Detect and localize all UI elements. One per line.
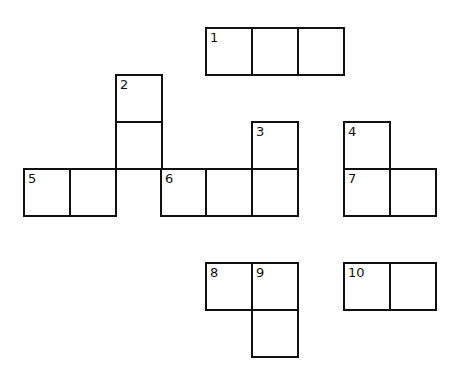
- crossword-cell[interactable]: [251, 309, 299, 358]
- crossword-cell[interactable]: [115, 168, 163, 217]
- crossword-cell[interactable]: [389, 168, 437, 217]
- crossword-cell[interactable]: [297, 27, 345, 76]
- clue-number: 2: [120, 78, 128, 91]
- clue-number: 6: [165, 172, 173, 185]
- crossword-cell-6[interactable]: 6: [160, 168, 208, 217]
- crossword-grid: 12345678910: [0, 0, 460, 375]
- crossword-cell[interactable]: [251, 27, 299, 76]
- crossword-cell-1[interactable]: 1: [205, 27, 253, 76]
- crossword-cell-10[interactable]: 10: [343, 262, 391, 311]
- clue-number: 10: [348, 266, 365, 279]
- crossword-cell-9[interactable]: 9: [251, 262, 299, 311]
- clue-number: 9: [256, 266, 264, 279]
- clue-number: 3: [256, 125, 264, 138]
- crossword-cell-2[interactable]: 2: [115, 74, 163, 123]
- clue-number: 8: [210, 266, 218, 279]
- crossword-cell[interactable]: [251, 168, 299, 217]
- crossword-cell[interactable]: [205, 168, 253, 217]
- clue-number: 1: [210, 31, 218, 44]
- crossword-cell-4[interactable]: 4: [343, 121, 391, 170]
- crossword-cell[interactable]: [69, 168, 117, 217]
- clue-number: 4: [348, 125, 356, 138]
- clue-number: 7: [348, 172, 356, 185]
- crossword-cell-5[interactable]: 5: [23, 168, 71, 217]
- crossword-cell[interactable]: [115, 121, 163, 170]
- crossword-cell-8[interactable]: 8: [205, 262, 253, 311]
- crossword-cell-7[interactable]: 7: [343, 168, 391, 217]
- crossword-cell-3[interactable]: 3: [251, 121, 299, 170]
- clue-number: 5: [28, 172, 36, 185]
- crossword-cell[interactable]: [389, 262, 437, 311]
